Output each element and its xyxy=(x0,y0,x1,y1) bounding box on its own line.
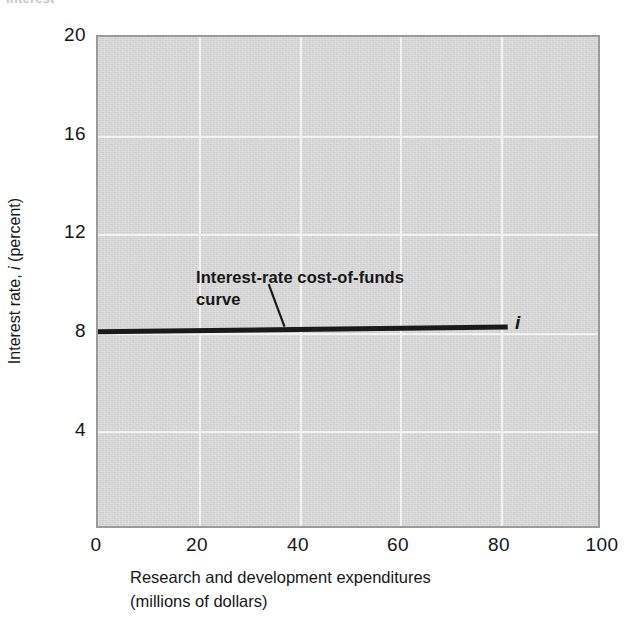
y-tick-8: 8 xyxy=(22,320,86,342)
y-tick-4: 4 xyxy=(22,419,86,441)
y-axis-title-suffix: (percent) xyxy=(6,198,23,266)
x-tick-100: 100 xyxy=(567,534,636,556)
interest-rate-cost-of-funds-curve xyxy=(98,327,508,332)
curve-annotation-line1: Interest-rate cost-of-funds xyxy=(196,267,446,289)
x-tick-20: 20 xyxy=(162,534,232,556)
x-tick-40: 40 xyxy=(263,534,333,556)
y-axis-title: Interest rate, i (percent) xyxy=(6,101,24,461)
y-tick-16: 16 xyxy=(22,123,86,145)
y-tick-12: 12 xyxy=(22,221,86,243)
y-tick-20: 20 xyxy=(22,24,86,46)
curve-annotation-label: Interest-rate cost-of-funds curve xyxy=(196,267,446,311)
y-axis-title-prefix: Interest rate, xyxy=(6,270,23,364)
x-tick-60: 60 xyxy=(363,534,433,556)
x-tick-0: 0 xyxy=(61,534,131,556)
x-axis-title: Research and development expenditures (m… xyxy=(130,566,431,614)
x-axis-title-line1: Research and development expenditures xyxy=(130,566,431,590)
x-axis-tick-labels: 0 20 40 60 80 100 xyxy=(0,534,636,564)
y-axis-tick-labels: 20 16 12 8 4 xyxy=(22,0,86,624)
curve-annotation-line2: curve xyxy=(196,289,446,311)
curve-end-symbol-i: i xyxy=(515,312,520,334)
x-tick-80: 80 xyxy=(464,534,534,556)
x-axis-title-line2: (millions of dollars) xyxy=(130,590,431,614)
y-axis-title-variable: i xyxy=(6,266,23,270)
